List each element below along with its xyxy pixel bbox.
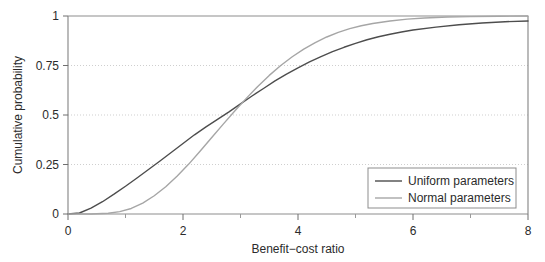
x-tick-label: 6 <box>410 224 417 238</box>
x-tick-label: 2 <box>180 224 187 238</box>
y-tick-label: 0.25 <box>36 158 60 172</box>
cumulative-probability-chart: 00.250.50.75102468Benefit−cost ratioCumu… <box>0 0 545 262</box>
x-axis-title: Benefit−cost ratio <box>251 242 344 256</box>
chart-figure: 00.250.50.75102468Benefit−cost ratioCumu… <box>0 0 545 262</box>
y-tick-label: 1 <box>52 9 59 23</box>
y-tick-label: 0.5 <box>42 108 59 122</box>
y-axis-title: Cumulative probability <box>11 56 25 174</box>
x-tick-label: 8 <box>525 224 532 238</box>
y-tick-label: 0.75 <box>36 59 60 73</box>
x-tick-label: 0 <box>65 224 72 238</box>
legend-label-normal: Normal parameters <box>408 191 511 205</box>
x-tick-label: 4 <box>295 224 302 238</box>
y-tick-label: 0 <box>52 207 59 221</box>
legend-label-uniform: Uniform parameters <box>408 174 514 188</box>
